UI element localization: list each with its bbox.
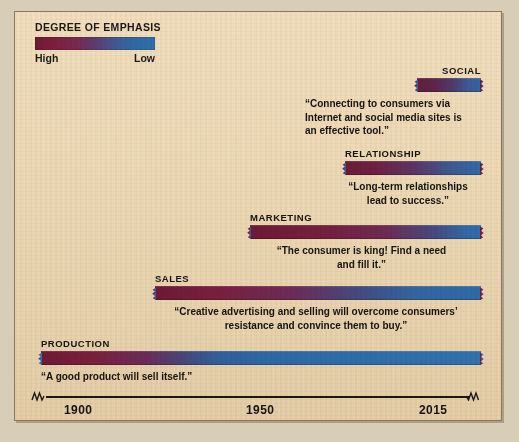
era-bar-marketing [250,225,481,239]
era-quote-production: “A good product will sell itself.” [41,370,481,384]
legend: DEGREE OF EMPHASIS High Low [35,21,161,66]
legend-title: DEGREE OF EMPHASIS [35,21,161,33]
era-quote-marketing: “The consumer is king! Find a need and f… [242,244,481,271]
era-quote-relationship-line2: lead to success.” [335,194,481,208]
legend-low-label: Low [134,52,155,64]
legend-scale: High Low [35,52,155,66]
era-production: PRODUCTION “A good product will sell its… [41,338,481,384]
era-label-relationship: RELATIONSHIP [345,148,481,159]
era-quote-marketing-line1: “The consumer is king! Find a need [242,244,481,258]
axis-tick-1900: 1900 [64,403,92,417]
era-quote-marketing-line2: and fill it.” [242,258,481,272]
era-label-production: PRODUCTION [41,338,481,349]
era-quote-social-line1: “Connecting to consumers via [305,97,481,111]
axis-break-squiggle-icon-right [464,388,480,404]
axis-break-squiggle-icon-left [31,388,47,404]
era-label-sales: SALES [155,273,481,284]
era-label-marketing: MARKETING [250,212,481,223]
era-quote-relationship: “Long-term relationships lead to success… [335,180,481,207]
era-quote-production-line1: “A good product will sell itself.” [41,370,481,384]
legend-gradient-bar [35,37,155,50]
figure-panel: DEGREE OF EMPHASIS High Low SOCIAL “Conn… [14,11,502,421]
era-label-social: SOCIAL [305,65,481,76]
era-sales: SALES “Creative advertising and selling … [155,273,481,332]
era-relationship: RELATIONSHIP “Long-term relationships le… [345,148,481,207]
era-bar-relationship [345,161,481,175]
timeline-axis [46,396,470,398]
era-quote-social: “Connecting to consumers via Internet an… [305,97,481,138]
era-social: SOCIAL “Connecting to consumers via Inte… [305,65,481,138]
axis-tick-2015: 2015 [419,403,447,417]
era-bar-production [41,351,481,365]
timeline-figure: DEGREE OF EMPHASIS High Low SOCIAL “Conn… [0,0,519,442]
era-marketing: MARKETING “The consumer is king! Find a … [250,212,481,271]
era-quote-sales-line1: “Creative advertising and selling will o… [151,305,481,319]
axis-tick-1950: 1950 [246,403,274,417]
era-quote-social-line3: an effective tool.” [305,124,481,138]
legend-high-label: High [35,52,58,64]
era-bar-sales [155,286,481,300]
era-quote-sales: “Creative advertising and selling will o… [151,305,481,332]
era-quote-social-line2: Internet and social media sites is [305,111,481,125]
era-quote-sales-line2: resistance and convince them to buy.” [151,319,481,333]
era-bar-social [417,78,481,92]
era-quote-relationship-line1: “Long-term relationships [335,180,481,194]
